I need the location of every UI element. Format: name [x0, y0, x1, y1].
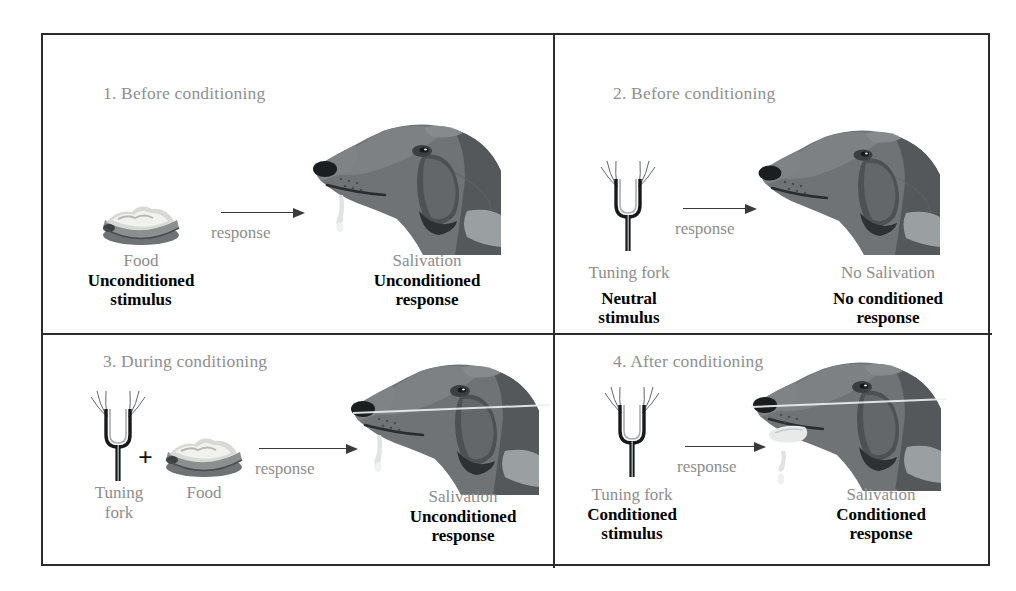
response-term-line2: response	[791, 524, 971, 544]
panel-3-response-labels: Salivation Unconditioned response	[373, 487, 553, 546]
response-term-line2: response	[337, 290, 517, 310]
stimulus-name-line2: fork	[79, 503, 159, 523]
response-arrow	[221, 207, 306, 219]
food-bowl-icon	[98, 195, 184, 247]
response-term-line1: No conditioned	[793, 289, 983, 309]
response-term-line1: Unconditioned	[373, 507, 553, 527]
panel-3-stimulus2-labels: Food	[165, 483, 243, 503]
stimulus-term-line2: stimulus	[567, 524, 697, 544]
stimulus-term-line2: stimulus	[565, 308, 693, 328]
stimulus-term-line1: Conditioned	[567, 505, 697, 525]
response-name: Salivation	[791, 485, 971, 505]
plus-sign: +	[138, 445, 153, 471]
response-term-line1: Unconditioned	[337, 271, 517, 291]
stimulus-term-line1: Unconditioned	[79, 271, 203, 291]
food-bowl-icon	[161, 427, 247, 479]
panel-1: 1. Before conditioning Food Unconditione…	[43, 35, 553, 333]
dog-head-drooling-icon	[745, 353, 953, 503]
response-term-line2: response	[373, 526, 553, 546]
figure-sheet: 1. Before conditioning Food Unconditione…	[0, 0, 1016, 591]
arrow-label: response	[255, 459, 314, 479]
stimulus-name: Food	[79, 251, 203, 271]
response-name: Salivation	[337, 251, 517, 271]
arrow-label: response	[675, 219, 734, 239]
panel-1-stimulus-labels: Food Unconditioned stimulus	[79, 251, 203, 310]
panel-2-heading: 2. Before conditioning	[613, 83, 775, 104]
panel-3-stimulus-labels: Tuning fork	[79, 483, 159, 522]
arrow-label: response	[677, 457, 736, 477]
panel-2-stimulus-labels: Tuning fork Neutral stimulus	[565, 263, 693, 328]
panel-1-heading: 1. Before conditioning	[103, 83, 265, 104]
panel-4-heading: 4. After conditioning	[613, 351, 764, 372]
response-name: No Salivation	[793, 263, 983, 283]
response-name: Salivation	[373, 487, 553, 507]
panel-2-response-labels: No Salivation No conditioned response	[793, 263, 983, 328]
stimulus-second-name: Food	[165, 483, 243, 503]
tuning-fork-icon	[597, 157, 659, 255]
panel-4-response-labels: Salivation Conditioned response	[791, 485, 971, 544]
response-term-line2: response	[793, 308, 983, 328]
dog-head-icon	[751, 121, 951, 265]
panel-2: 2. Before conditioning Tuning fork Neutr…	[555, 35, 992, 333]
tuning-fork-icon	[601, 383, 663, 481]
dog-head-salivating-icon	[305, 115, 515, 265]
stimulus-name: Tuning fork	[567, 485, 697, 505]
panel-3-heading: 3. During conditioning	[103, 351, 267, 372]
diagram-frame: 1. Before conditioning Food Unconditione…	[41, 33, 990, 566]
stimulus-term-line2: stimulus	[79, 290, 203, 310]
dog-head-salivating-icon	[343, 355, 555, 505]
panel-3: 3. During conditioning Tuning fork +	[43, 335, 553, 568]
stimulus-name: Tuning	[79, 483, 159, 503]
panel-4: 4. After conditioning Tuning fork Condit…	[555, 335, 992, 568]
stimulus-name: Tuning fork	[565, 263, 693, 283]
panel-4-stimulus-labels: Tuning fork Conditioned stimulus	[567, 485, 697, 544]
stimulus-term-line1: Neutral	[565, 289, 693, 309]
arrow-label: response	[211, 223, 270, 243]
response-term-line1: Conditioned	[791, 505, 971, 525]
panel-1-response-labels: Salivation Unconditioned response	[337, 251, 517, 310]
response-arrow	[683, 203, 758, 215]
